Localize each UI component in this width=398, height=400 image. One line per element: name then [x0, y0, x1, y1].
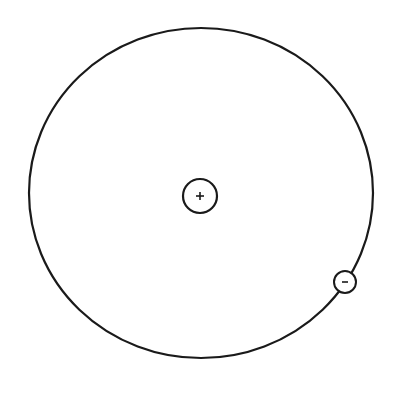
nucleus: +	[183, 179, 217, 213]
atom-diagram: + -	[0, 0, 398, 400]
electron: -	[334, 271, 356, 293]
